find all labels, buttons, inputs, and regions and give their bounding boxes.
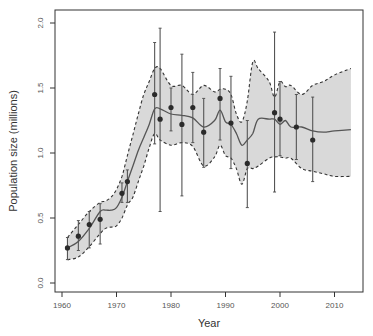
x-axis-title: Year [198, 317, 221, 329]
y-axis: 0.00.51.01.52.0 [36, 17, 55, 289]
credible-interval-band [68, 60, 351, 259]
svg-text:2000: 2000 [271, 301, 289, 310]
population-chart: 196019701980199020002010 0.00.51.01.52.0… [0, 0, 373, 336]
svg-text:0.5: 0.5 [36, 212, 45, 224]
svg-text:1.0: 1.0 [36, 147, 45, 159]
svg-text:1.5: 1.5 [36, 82, 45, 94]
x-axis: 196019701980199020002010 [53, 292, 344, 310]
y-axis-title: Population size (millions) [7, 90, 19, 212]
svg-text:1970: 1970 [108, 301, 126, 310]
svg-text:1980: 1980 [162, 301, 180, 310]
svg-text:0.0: 0.0 [36, 277, 45, 289]
svg-text:1960: 1960 [53, 301, 71, 310]
svg-text:2.0: 2.0 [36, 17, 45, 29]
svg-text:1990: 1990 [217, 301, 235, 310]
svg-text:2010: 2010 [326, 301, 344, 310]
